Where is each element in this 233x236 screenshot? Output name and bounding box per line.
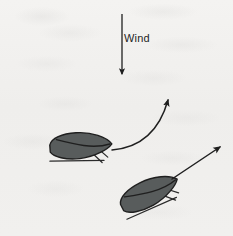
figure-illustration (0, 0, 233, 236)
curved-flight-path-arrow (112, 100, 168, 150)
moth-lower-group (115, 167, 185, 224)
straight-flight-path-arrow (172, 147, 220, 179)
moth-wind-flight-figure: Wind (0, 0, 233, 236)
moth-upper-group (48, 130, 113, 166)
wind-label: Wind (124, 33, 150, 44)
